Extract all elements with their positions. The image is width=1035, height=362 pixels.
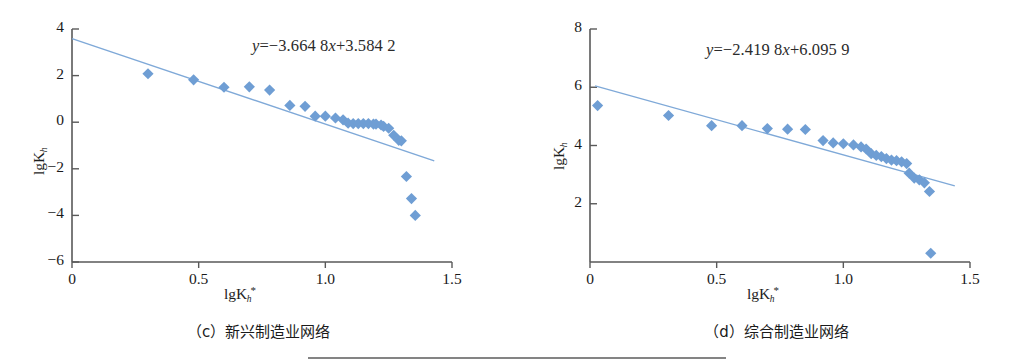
equation-intercept: 3.584 2 xyxy=(345,36,395,55)
data-point-marker xyxy=(299,101,310,112)
data-point-marker xyxy=(925,248,936,259)
data-point-marker xyxy=(320,111,331,122)
x-tick-label: 0.5 xyxy=(174,270,224,288)
equation-x-symbol: x xyxy=(328,36,335,55)
equation-intercept: 6.095 9 xyxy=(799,40,849,59)
x-tick-label: 0 xyxy=(565,270,615,288)
data-point-marker xyxy=(817,135,828,146)
data-point-marker xyxy=(663,110,674,121)
data-point-marker xyxy=(406,193,417,204)
x-tick-label: 1.0 xyxy=(818,270,868,288)
panel-caption-c: （c）新兴制造业网络 xyxy=(0,320,517,341)
x-axis-label-superscript: * xyxy=(774,284,780,296)
x-tick-label: 0 xyxy=(47,270,97,288)
x-axis-label-superscript: * xyxy=(251,284,257,296)
data-point-marker xyxy=(401,171,412,182)
equation-x-symbol: x xyxy=(782,40,789,59)
data-point-marker xyxy=(924,186,935,197)
equation-equals: = xyxy=(713,40,722,59)
y-axis-label-sub: h xyxy=(39,148,49,153)
chart-panel-c: y=−3.664 8x+3.584 2 lgKh lgKh* （c）新兴制造业网… xyxy=(0,0,517,362)
x-tick-label: 0.5 xyxy=(692,270,742,288)
equation-slope: −3.664 8 xyxy=(269,36,329,55)
regression-trend-line xyxy=(72,39,434,161)
data-point-marker xyxy=(284,100,295,111)
y-tick-label: 2 xyxy=(16,65,64,83)
regression-trend-line xyxy=(595,86,955,186)
data-point-marker xyxy=(142,68,153,79)
data-point-marker xyxy=(838,138,849,149)
data-point-marker xyxy=(828,137,839,148)
equation-slope: −2.419 8 xyxy=(723,40,783,59)
y-tick-label: 4 xyxy=(534,135,582,153)
y-tick-label: 6 xyxy=(534,76,582,94)
y-tick-label: −2 xyxy=(16,158,64,176)
equation-plus: + xyxy=(336,36,345,55)
x-tick-label: 1.5 xyxy=(945,270,995,288)
equation-plus: + xyxy=(790,40,799,59)
y-tick-label: 4 xyxy=(16,18,64,36)
data-point-marker xyxy=(800,124,811,135)
x-axis-label-main: lgK xyxy=(747,285,770,302)
data-point-marker xyxy=(706,120,717,131)
chart-panel-d: y=−2.419 8x+6.095 9 lgKh lgKh* （d）综合制造业网… xyxy=(518,0,1035,362)
data-point-marker xyxy=(244,81,255,92)
y-tick-label: 2 xyxy=(534,193,582,211)
equation-annotation-d: y=−2.419 8x+6.095 9 xyxy=(706,40,850,60)
y-tick-label: −6 xyxy=(16,251,64,269)
panel-caption-d: （d）综合制造业网络 xyxy=(518,320,1035,341)
equation-equals: = xyxy=(259,36,268,55)
data-point-marker xyxy=(736,120,747,131)
x-axis-label-main: lgK xyxy=(224,285,247,302)
page-bottom-rule xyxy=(308,357,726,359)
data-point-marker xyxy=(592,100,603,111)
figure-container: y=−3.664 8x+3.584 2 lgKh lgKh* （c）新兴制造业网… xyxy=(0,0,1035,362)
data-point-marker xyxy=(782,124,793,135)
y-tick-label: 8 xyxy=(534,18,582,36)
y-tick-label: 0 xyxy=(16,111,64,129)
data-point-marker xyxy=(188,74,199,85)
equation-annotation-c: y=−3.664 8x+3.584 2 xyxy=(252,36,396,56)
x-tick-label: 1.0 xyxy=(300,270,350,288)
y-tick-label: −4 xyxy=(16,204,64,222)
data-point-marker xyxy=(410,210,421,221)
data-point-marker xyxy=(264,84,275,95)
x-tick-label: 1.5 xyxy=(427,270,477,288)
